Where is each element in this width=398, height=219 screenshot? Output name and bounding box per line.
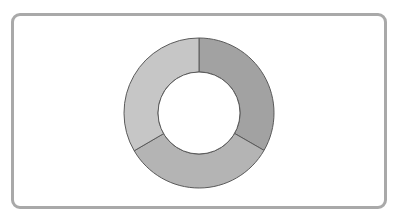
- donut-hole: [158, 72, 240, 154]
- donut-chart: [0, 0, 398, 219]
